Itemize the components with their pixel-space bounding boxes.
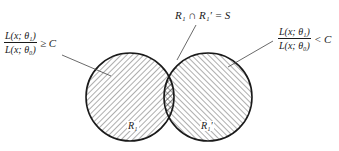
region-label-r1: R₁ — [127, 121, 139, 131]
region-label-r1-prime: R₁′ — [200, 121, 214, 131]
right-denominator: L(x; θ₀) — [278, 39, 311, 51]
left-relation: ≥ C — [40, 37, 56, 49]
left-denominator: L(x; θ₀) — [4, 43, 37, 55]
intersection-label: R₁ ∩ R₁′ = S — [175, 10, 230, 21]
right-numerator: L(x; θ₁) — [278, 26, 311, 39]
left-numerator: L(x; θ₁) — [4, 30, 37, 43]
right-condition: L(x; θ₁) L(x; θ₀) < C — [278, 26, 331, 51]
leader-line-right — [228, 41, 273, 67]
right-relation: < C — [314, 33, 332, 45]
left-condition: L(x; θ₁) L(x; θ₀) ≥ C — [4, 30, 56, 55]
venn-diagram — [0, 0, 339, 151]
